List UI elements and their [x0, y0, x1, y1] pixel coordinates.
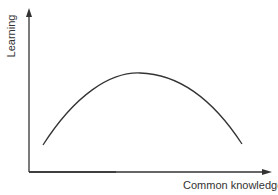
y-axis-arrow-icon: [26, 8, 32, 17]
y-axis-label-text: Learning: [5, 15, 17, 58]
x-axis-arrow-icon: [262, 169, 272, 175]
y-axis-label: Learning: [2, 8, 20, 64]
x-axis-label: Common knowledge: [183, 179, 278, 191]
inverted-u-curve: [43, 73, 242, 145]
diagram-canvas: [0, 0, 278, 195]
